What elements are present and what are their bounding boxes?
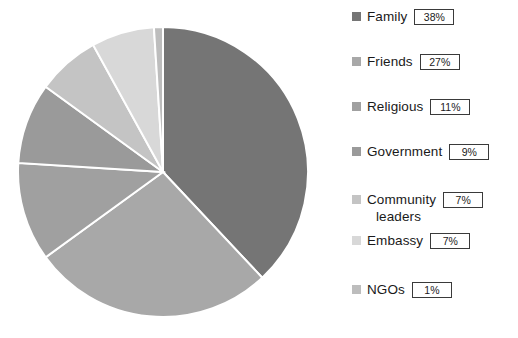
legend-swatch-icon	[352, 57, 361, 66]
legend-label: Family	[367, 8, 407, 25]
legend-item-community[interactable]: Community7%leaders	[352, 191, 483, 225]
legend-value-badge: 11%	[430, 99, 470, 115]
legend-label-line2: leaders	[367, 208, 421, 225]
pie-chart-page: Family38%Friends27%Religious11%Governmen…	[0, 0, 518, 338]
legend-label: Government	[367, 143, 442, 160]
legend-swatch-icon	[352, 285, 361, 294]
legend-value-badge: 27%	[420, 54, 460, 70]
legend-label: Community	[367, 191, 436, 208]
legend-value-badge: 1%	[412, 282, 452, 298]
legend-swatch-icon	[352, 236, 361, 245]
pie-chart-area	[0, 0, 330, 338]
legend-label: Embassy	[367, 232, 423, 249]
legend-swatch-icon	[352, 102, 361, 111]
legend-swatch-icon	[352, 195, 361, 204]
legend-value-badge: 7%	[443, 192, 483, 208]
legend-label: Religious	[367, 98, 423, 115]
legend-item-family[interactable]: Family38%	[352, 8, 454, 25]
legend-value-badge: 38%	[414, 9, 454, 25]
legend-item-friends[interactable]: Friends27%	[352, 53, 460, 70]
legend-item-religious[interactable]: Religious11%	[352, 98, 470, 115]
chart-legend: Family38%Friends27%Religious11%Governmen…	[352, 0, 518, 338]
legend-item-ngos[interactable]: NGOs1%	[352, 281, 452, 298]
legend-item-government[interactable]: Government9%	[352, 143, 489, 160]
legend-item-embassy[interactable]: Embassy7%	[352, 232, 470, 249]
legend-value-badge: 9%	[449, 144, 489, 160]
legend-label: Friends	[367, 53, 413, 70]
legend-label: NGOs	[367, 281, 405, 298]
legend-swatch-icon	[352, 12, 361, 21]
pie-chart-svg	[0, 0, 330, 338]
legend-value-badge: 7%	[430, 233, 470, 249]
legend-swatch-icon	[352, 147, 361, 156]
